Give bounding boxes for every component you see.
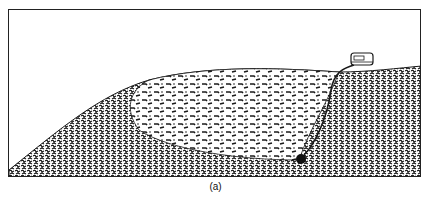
instrument-box (351, 53, 373, 65)
terrain-illustration (9, 10, 421, 177)
figure-caption: (a) (0, 181, 431, 192)
buried-sensor (296, 154, 306, 164)
figure-frame (8, 9, 421, 177)
